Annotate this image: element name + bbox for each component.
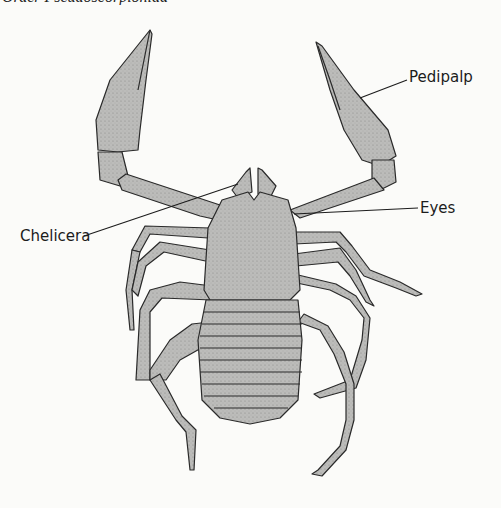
chelicerae — [232, 168, 276, 198]
pedipalp-leader-line — [360, 80, 407, 98]
left-pedipalp — [96, 30, 220, 220]
abdomen — [198, 300, 302, 424]
label-pedipalp: Pedipalp — [409, 68, 473, 86]
carapace — [204, 192, 300, 300]
right-legs — [292, 232, 422, 476]
right-pedipalp — [290, 42, 396, 218]
label-chelicera: Chelicera — [20, 227, 90, 245]
label-eyes: Eyes — [420, 199, 455, 217]
